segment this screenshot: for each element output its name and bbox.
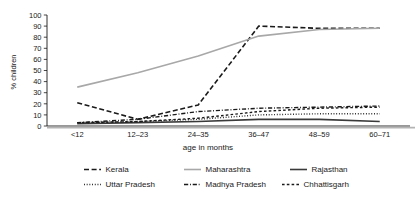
y-tick-label: 20 — [33, 100, 41, 109]
legend-item-uttar-pradesh[interactable]: Uttar Pradesh — [84, 180, 155, 189]
x-tick-label: <12 — [71, 130, 84, 139]
legend-label: Kerala — [106, 165, 130, 174]
y-tick-label: 0 — [37, 122, 41, 131]
line-chart: % children 0102030405060708090100 <1212–… — [0, 0, 417, 205]
y-tick-label: 40 — [33, 77, 41, 86]
x-tick-label: 24–35 — [188, 130, 209, 139]
x-tick-label: 48–59 — [309, 130, 330, 139]
legend-item-rajasthan[interactable]: Rajasthan — [290, 165, 348, 174]
legend-label: Rajasthan — [312, 165, 348, 174]
legend-label: Madhya Pradesh — [206, 180, 266, 189]
axis-lines — [47, 15, 415, 128]
x-tick-label: 60–71 — [369, 130, 390, 139]
x-tick-label: 36–47 — [248, 130, 269, 139]
y-tick-label: 10 — [33, 111, 41, 120]
legend-item-maharashtra[interactable]: Maharashtra — [184, 165, 251, 174]
legend-label: Chhattisgarh — [304, 180, 349, 189]
series-line-maharashtra — [77, 28, 380, 87]
data-series-group — [77, 26, 380, 124]
x-axis-ticks: <1212–2324–3536–4748–5960–71 — [71, 130, 390, 139]
chart-figure: % children 0102030405060708090100 <1212–… — [0, 0, 417, 205]
y-axis-ticks: 0102030405060708090100 — [29, 11, 47, 131]
x-tick-label: 12–23 — [127, 130, 148, 139]
x-axis-title: age in months — [183, 143, 233, 152]
y-axis-label: % children — [9, 54, 18, 89]
y-tick-label: 50 — [33, 66, 41, 75]
legend-item-chhattisgarh[interactable]: Chhattisgarh — [282, 180, 349, 189]
y-tick-label: 70 — [33, 44, 41, 53]
legend-label: Maharashtra — [206, 165, 251, 174]
legend-item-madhya-pradesh[interactable]: Madhya Pradesh — [184, 180, 266, 189]
y-tick-label: 90 — [33, 22, 41, 31]
y-tick-label: 100 — [29, 11, 42, 20]
y-tick-label: 60 — [33, 55, 41, 64]
chart-legend: KeralaMaharashtraRajasthanUttar PradeshM… — [84, 165, 349, 189]
legend-item-kerala[interactable]: Kerala — [84, 165, 129, 174]
legend-label: Uttar Pradesh — [106, 180, 155, 189]
y-axis-title: % children — [9, 54, 18, 89]
y-tick-label: 80 — [33, 33, 41, 42]
y-tick-label: 30 — [33, 88, 41, 97]
series-line-kerala — [77, 26, 380, 119]
